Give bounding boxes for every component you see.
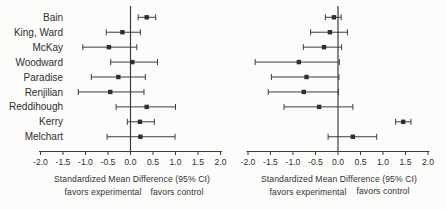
x-tick-label: 2.0	[215, 157, 227, 167]
point-marker	[145, 105, 149, 109]
favors-experimental-label-right: favors experimental	[270, 187, 347, 197]
study-label: Woodward	[15, 57, 63, 68]
point-marker	[108, 90, 112, 94]
x-axis-title-left: Standardized Mean Difference (95% CI)	[54, 174, 210, 184]
study-label: Bain	[43, 12, 63, 23]
favors-experimental-label-left: favors experimental	[65, 187, 142, 197]
x-tick-label: -1.5	[56, 157, 71, 167]
study-label: King, Ward	[14, 27, 63, 38]
point-marker	[145, 15, 149, 19]
point-marker	[332, 15, 336, 19]
study-label: McKay	[32, 42, 63, 53]
x-axis-title-right: Standardized Mean Difference (95% CI)	[261, 174, 417, 184]
x-tick-label: -0.5	[308, 157, 323, 167]
x-tick-label: 1.5	[400, 157, 412, 167]
x-tick-label: 1.5	[192, 157, 204, 167]
point-marker	[130, 60, 134, 64]
x-tick-label: -1.5	[263, 157, 278, 167]
x-tick-label: -2.0	[33, 157, 48, 167]
point-marker	[138, 135, 142, 139]
point-marker	[304, 75, 308, 79]
study-label: Kerry	[39, 116, 63, 127]
study-label: Melchart	[25, 131, 64, 142]
study-label: Paradise	[24, 72, 64, 83]
x-tick-label: -0.5	[101, 157, 116, 167]
point-marker	[297, 60, 301, 64]
point-marker	[317, 105, 321, 109]
point-marker	[351, 135, 355, 139]
forest-plot-canvas: BainKing, WardMcKayWoodwardParadiseRenji…	[0, 0, 446, 172]
point-marker	[302, 90, 306, 94]
x-tick-label: 0.5	[355, 157, 367, 167]
x-tick-label: -1.0	[286, 157, 301, 167]
study-label: Reddihough	[9, 101, 63, 112]
point-marker	[322, 45, 326, 49]
study-label: Renjilian	[25, 87, 63, 98]
point-marker	[401, 120, 405, 124]
favors-control-label-left: favors control	[151, 187, 204, 197]
favors-control-label-right: favors control	[357, 186, 410, 196]
point-marker	[107, 45, 111, 49]
x-tick-label: 2.0	[422, 157, 434, 167]
point-marker	[138, 120, 142, 124]
x-tick-label: 0.0	[125, 157, 137, 167]
x-tick-label: 1.0	[170, 157, 182, 167]
point-marker	[116, 75, 120, 79]
x-tick-label: -1.0	[78, 157, 93, 167]
x-tick-label: 1.0	[377, 157, 389, 167]
x-tick-label: -2.0	[241, 157, 256, 167]
forest-plot-figure: BainKing, WardMcKayWoodwardParadiseRenji…	[0, 0, 446, 209]
point-marker	[120, 30, 124, 34]
x-tick-label: 0.5	[147, 157, 159, 167]
point-marker	[328, 30, 332, 34]
x-tick-label: 0.0	[332, 157, 344, 167]
